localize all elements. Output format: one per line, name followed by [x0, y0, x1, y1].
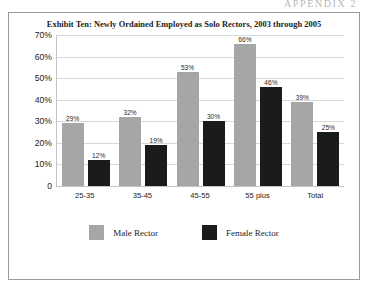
x-axis-tick-label: 55 plus — [229, 191, 287, 200]
plot-area: 70%60%50%40%30%20%10%0 29%12%32%19%53%30… — [56, 35, 344, 187]
bar-male-rector[interactable]: 29% — [62, 123, 84, 186]
legend-item-male-rector: Male Rector — [89, 225, 158, 240]
bar-value-label: 30% — [207, 113, 220, 120]
legend-swatch-male-rector-icon — [89, 225, 104, 240]
bar-value-label: 25% — [322, 124, 335, 131]
y-axis-tick-label: 40% — [35, 95, 52, 105]
bar-value-label: 53% — [181, 64, 194, 71]
chart-title: Exhibit Ten: Newly Ordained Employed as … — [9, 20, 359, 29]
bars-layer: 29%12%32%19%53%30%66%46%39%25% — [57, 35, 344, 186]
legend-label-male-rector: Male Rector — [113, 228, 158, 238]
x-axis-tick-label: 25-35 — [56, 191, 114, 200]
legend-swatch-female-rector-icon — [202, 225, 217, 240]
bar-male-rector[interactable]: 39% — [291, 102, 313, 186]
bar-value-label: 29% — [66, 115, 79, 122]
legend-label-female-rector: Female Rector — [226, 228, 279, 238]
bar-female-rector[interactable]: 30% — [203, 121, 225, 186]
bar-value-label: 19% — [150, 137, 163, 144]
bar-value-label: 12% — [92, 152, 105, 159]
chart-frame: Exhibit Ten: Newly Ordained Employed as … — [8, 12, 360, 280]
bar-group: 53%30% — [172, 35, 229, 186]
bar-group: 29%12% — [57, 35, 114, 186]
x-axis-tick-label: 45-55 — [171, 191, 229, 200]
bar-group: 39%25% — [287, 35, 344, 186]
chart-legend: Male Rector Female Rector — [9, 225, 359, 240]
y-axis-tick-label: 50% — [35, 73, 52, 83]
x-axis-tick-labels: 25-3535-4545-5555 plusTotal — [56, 191, 344, 200]
bar-female-rector[interactable]: 46% — [260, 87, 282, 186]
bar-group: 32%19% — [114, 35, 171, 186]
y-axis-tick-label: 20% — [35, 138, 52, 148]
bar-male-rector[interactable]: 32% — [119, 117, 141, 186]
bar-value-label: 66% — [238, 36, 251, 43]
y-axis-tick-label: 30% — [35, 116, 52, 126]
bar-female-rector[interactable]: 25% — [317, 132, 339, 186]
bar-male-rector[interactable]: 66% — [234, 44, 256, 186]
bar-value-label: 39% — [296, 94, 309, 101]
page-header-appendix: APPENDIX 2 — [284, 0, 357, 9]
y-axis-tick-label: 0 — [47, 181, 52, 191]
x-axis-tick-label: 35-45 — [114, 191, 172, 200]
bar-value-label: 32% — [124, 109, 137, 116]
legend-item-female-rector: Female Rector — [202, 225, 279, 240]
y-axis-tick-label: 60% — [35, 52, 52, 62]
bar-male-rector[interactable]: 53% — [177, 72, 199, 186]
bar-female-rector[interactable]: 19% — [145, 145, 167, 186]
bar-group: 66%46% — [229, 35, 286, 186]
bar-female-rector[interactable]: 12% — [88, 160, 110, 186]
x-axis-tick-label: Total — [286, 191, 344, 200]
y-axis-tick-label: 10% — [35, 159, 52, 169]
bar-value-label: 46% — [264, 79, 277, 86]
y-axis-tick-label: 70% — [35, 30, 52, 40]
